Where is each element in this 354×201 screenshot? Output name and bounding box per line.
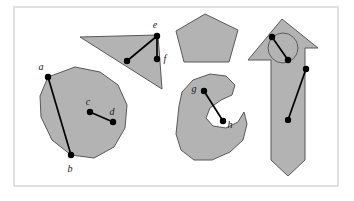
kidney-blob xyxy=(176,74,247,160)
point-b-label: b xyxy=(68,163,73,174)
point-d xyxy=(110,119,116,125)
point-arrow-4 xyxy=(285,117,291,123)
point-e-label: e xyxy=(153,19,158,30)
point-f xyxy=(154,56,160,62)
shapes-layer xyxy=(40,14,318,176)
point-arrow-1 xyxy=(269,34,275,40)
point-arrow-2 xyxy=(285,57,291,63)
point-a-label: a xyxy=(39,61,44,72)
point-f-label: f xyxy=(164,53,168,64)
geometry-figure: abcdefgh xyxy=(0,0,354,201)
point-h xyxy=(220,118,226,124)
point-c-label: c xyxy=(86,96,91,107)
point-arrow-3 xyxy=(303,66,309,72)
point-a xyxy=(45,74,51,80)
point-h-label: h xyxy=(228,119,233,130)
point-e-interior xyxy=(124,58,130,64)
point-b xyxy=(68,152,74,158)
point-e xyxy=(154,33,160,39)
pentagon xyxy=(176,14,238,62)
point-g xyxy=(201,88,207,94)
figure-canvas: abcdefgh xyxy=(0,0,354,201)
point-g-label: g xyxy=(192,83,197,94)
point-c xyxy=(87,109,93,115)
